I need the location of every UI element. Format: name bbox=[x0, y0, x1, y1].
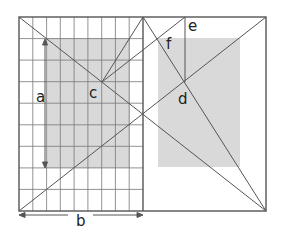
label-d: d bbox=[178, 90, 188, 108]
label-a: a bbox=[36, 88, 45, 106]
right-shaded-rect bbox=[158, 38, 240, 167]
label-c: c bbox=[89, 84, 97, 102]
label-b: b bbox=[76, 212, 86, 230]
golden-section-diagram: a b c d e f bbox=[0, 0, 283, 240]
label-e: e bbox=[188, 17, 197, 35]
label-f: f bbox=[166, 35, 172, 53]
